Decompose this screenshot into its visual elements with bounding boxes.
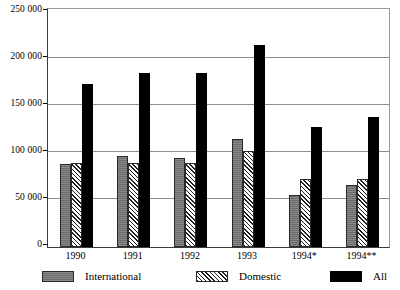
bar-all-1994* (311, 127, 322, 247)
bar-domestic-1994* (300, 179, 311, 247)
bar-international-1991 (117, 156, 128, 247)
x-axis-tick-label: 1991 (123, 250, 143, 262)
bar-all-1990 (82, 84, 93, 247)
x-axis-tick-label: 1992 (180, 250, 200, 262)
y-axis: 250 000 200 000 150 000 100 000 50 000 0 (0, 0, 42, 248)
legend-swatch-international (42, 271, 74, 282)
bar-all-1993 (254, 45, 265, 247)
chart-legend: International Domestic All (0, 268, 400, 288)
legend-label-international: International (85, 270, 141, 283)
bar-group-1990 (48, 9, 105, 247)
x-axis-tick-label: 1993 (237, 250, 257, 262)
bar-all-1991 (139, 73, 150, 247)
bar-group-1992 (162, 9, 219, 247)
bar-domestic-1991 (128, 163, 139, 247)
bar-groups (48, 9, 389, 247)
bar-group-1994* (277, 9, 334, 247)
bar-international-1990 (60, 164, 71, 247)
bar-international-1994** (346, 185, 357, 247)
legend-item-domestic: Domestic (196, 268, 281, 284)
bar-domestic-1994** (357, 179, 368, 247)
bar-all-1992 (196, 73, 207, 247)
x-axis-tick-label: 1994* (292, 250, 317, 262)
bar-chart: 250 000 200 000 150 000 100 000 50 000 0… (0, 0, 400, 290)
legend-item-international: International (42, 268, 141, 284)
x-axis-tick-label: 1994** (346, 250, 376, 262)
bar-international-1992 (174, 158, 185, 247)
bar-international-1993 (232, 139, 243, 247)
y-axis-tick-label: 200 000 (0, 51, 42, 61)
plot-area (47, 8, 390, 248)
legend-swatch-domestic (196, 271, 228, 282)
y-axis-tick-label: 50 000 (0, 192, 42, 202)
legend-item-all: All (330, 268, 387, 284)
legend-label-domestic: Domestic (239, 270, 281, 283)
bar-group-1993 (220, 9, 277, 247)
bar-group-1994** (334, 9, 391, 247)
bar-domestic-1990 (71, 163, 82, 247)
y-axis-tick-label: 150 000 (0, 98, 42, 108)
y-axis-tick-label: 250 000 (0, 4, 42, 14)
y-axis-tick-label: 0 (0, 239, 42, 249)
legend-label-all: All (373, 270, 387, 283)
bar-group-1991 (105, 9, 162, 247)
x-axis-tick-label: 1990 (66, 250, 86, 262)
bar-all-1994** (368, 117, 379, 247)
y-axis-tick-label: 100 000 (0, 145, 42, 155)
bar-domestic-1993 (243, 151, 254, 247)
bar-international-1994* (289, 195, 300, 247)
legend-swatch-all (330, 271, 362, 282)
bar-domestic-1992 (185, 163, 196, 247)
x-axis: 19901991199219931994*1994** (47, 250, 390, 266)
